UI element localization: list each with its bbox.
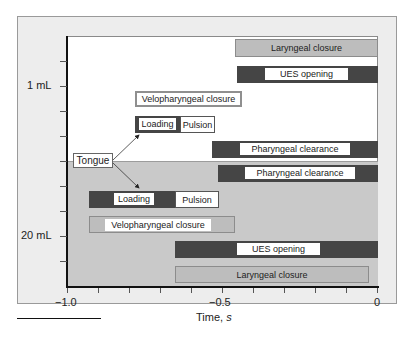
tongue-callout: Tongue <box>73 153 113 168</box>
footnote-rule <box>17 318 101 319</box>
callout-arrows <box>0 0 409 348</box>
